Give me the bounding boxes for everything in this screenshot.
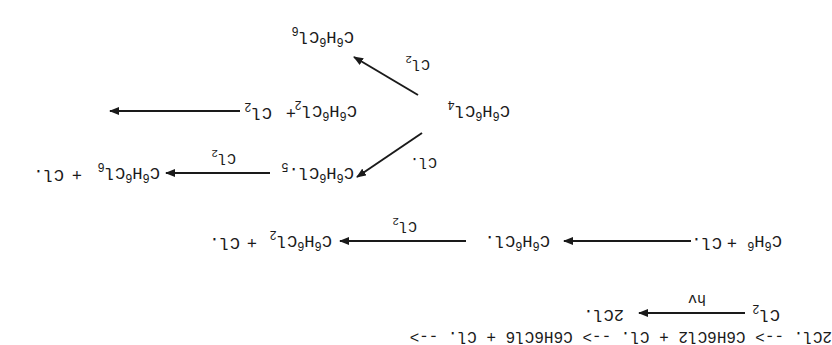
species-c6h6cl6-product: C6H6Cl6	[98, 160, 160, 183]
condition-cl-radical-step4b: Cl.	[410, 154, 437, 169]
plus-sign: +	[727, 234, 737, 251]
condition-cl2-step5: Cl2	[211, 147, 236, 165]
condition-hv: hv	[688, 291, 706, 306]
condition-cl2-step2: Cl2	[392, 215, 417, 233]
species-2cl-radical: 2Cl.	[583, 306, 624, 323]
species-c6h6cl-radical: C6H6Cl.	[485, 232, 550, 251]
species-c6h6cl5-radical: C6H6Cl.5	[281, 160, 354, 183]
plus-sign: +	[72, 166, 82, 183]
species-cl-radical: Cl.	[691, 234, 722, 251]
species-c6h6: C6H6	[747, 232, 782, 251]
species-c6h6cl2-reactant: C6H6Cl2	[295, 98, 357, 121]
condition-cl2-step4a: Cl2	[405, 53, 430, 71]
species-cl-radical: Cl.	[33, 166, 64, 183]
species-cl-radical: Cl.	[209, 234, 240, 251]
plus-sign: +	[247, 234, 257, 251]
species-c6h6cl2-product: C6H6Cl2	[270, 228, 332, 251]
reaction-scheme: 2Cl. --> Cl2 hv 2Cl. C6H6Cl2 + Cl. --> C…	[0, 0, 832, 345]
species-c6h6cl4: C6H6Cl4	[448, 98, 510, 121]
plus-sign: +	[286, 104, 296, 121]
species-cl2: Cl2	[752, 302, 780, 323]
species-c6h6cl6-branch-product: C6H6Cl6	[292, 24, 354, 47]
species-cl2: Cl2	[244, 100, 272, 121]
